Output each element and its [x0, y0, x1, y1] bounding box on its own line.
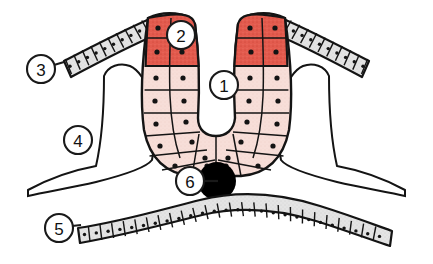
callout-5-number: 5 — [54, 220, 63, 239]
callout-3[interactable]: 3 — [27, 55, 55, 83]
basal-epithelium — [78, 194, 392, 246]
callout-4-number: 4 — [73, 132, 82, 151]
histology-diagram-svg: 1 2 3 4 5 6 — [0, 0, 433, 264]
callout-6-number: 6 — [185, 173, 194, 192]
callout-6[interactable]: 6 — [176, 167, 204, 195]
callout-1-number: 1 — [219, 77, 228, 96]
callout-2[interactable]: 2 — [167, 21, 195, 49]
callout-4[interactable]: 4 — [64, 126, 92, 154]
callout-1[interactable]: 1 — [210, 71, 238, 99]
callout-3-number: 3 — [36, 61, 45, 80]
leader-3 — [54, 62, 64, 65]
connective-tissue-left — [28, 64, 155, 196]
callout-2-number: 2 — [176, 27, 185, 46]
stained-cells-right — [234, 14, 287, 66]
histology-figure: 1 2 3 4 5 6 — [0, 0, 433, 264]
connective-tissue-right — [278, 64, 405, 196]
callout-5[interactable]: 5 — [45, 214, 73, 242]
